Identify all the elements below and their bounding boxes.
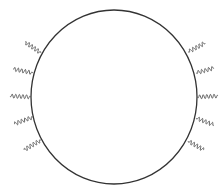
background — [0, 0, 224, 196]
loop-diagram — [0, 0, 224, 196]
